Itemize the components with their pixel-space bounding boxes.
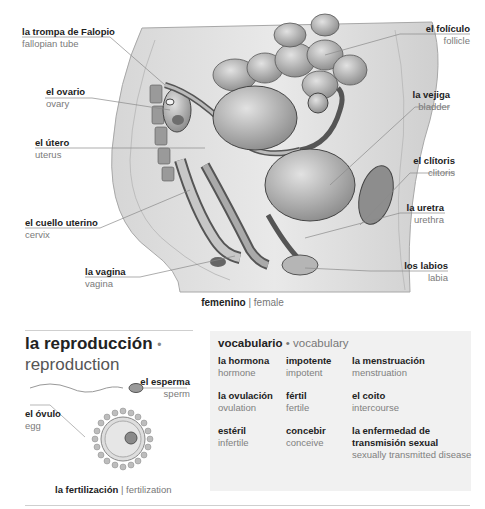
caption-separator: | [121,484,123,495]
vocab-item: estérilinfertile [218,425,249,449]
vocab-es: estéril [218,425,249,437]
fertilization-caption: la fertilización | fertilization [55,484,172,495]
label-es: el ovario [46,86,85,98]
vocab-item: fértilfertile [286,390,309,414]
label-bladder: la vejiga bladder [413,89,451,113]
vocab-es: impotente [286,355,331,367]
title-en: reproduction [25,355,161,374]
vocab-item: la menstruaciónmenstruation [352,355,425,379]
caption-es: femenino [201,297,245,308]
vocab-en: sexually transmitted disease [352,449,470,461]
label-es: la trompa de Falopio [22,26,115,38]
vocab-en: fertile [286,402,309,414]
vocab-en: infertile [218,437,249,449]
label-follicle: el folículo follicle [426,23,470,47]
diagram-caption: femenino | female [0,297,485,308]
vocab-en: impotent [286,367,331,379]
label-en: labia [404,272,448,284]
label-es: los labios [404,260,448,272]
label-ovary: el ovario ovary [46,86,85,110]
label-en: follicle [426,35,470,47]
label-en: bladder [413,101,451,113]
vocab-item: impotenteimpotent [286,355,331,379]
vocab-es: concebir [286,425,326,437]
label-es: el esperma [140,376,190,388]
vocab-es: fértil [286,390,309,402]
bullet-dot: • [157,338,161,352]
label-es: el óvulo [25,408,61,420]
caption-es: la fertilización [55,484,118,495]
label-es: la uretra [407,202,445,214]
label-en: cervix [25,229,98,241]
vocab-es: la menstruación [352,355,425,367]
label-es: el cuello uterino [25,217,98,229]
label-egg: el óvulo egg [25,408,61,432]
label-en: ovary [46,98,85,110]
vocabulary-title: vocabulario • vocabulary [218,337,349,349]
label-en: vagina [85,278,126,290]
label-es: la vejiga [413,89,451,101]
label-en: egg [25,420,61,432]
label-vagina: la vagina vagina [85,266,126,290]
label-en: sperm [140,388,190,400]
vocab-item: la enfermedad de transmisión sexualsexua… [352,425,470,461]
label-es: la vagina [85,266,126,278]
label-en: urethra [407,214,445,226]
label-en: uterus [35,149,69,161]
vocab-en: hormone [218,367,269,379]
vocab-en: intercourse [352,402,399,414]
label-uterus: el útero uterus [35,137,69,161]
vocab-en: conceive [286,437,326,449]
caption-en: fertilization [126,484,171,495]
label-labia: los labios labia [404,260,448,284]
label-es: el útero [35,137,69,149]
label-en: fallopian tube [22,38,115,50]
vocab-item: la hormonahormone [218,355,269,379]
vocab-es: el coito [352,390,399,402]
vocab-es: la hormona [218,355,269,367]
title-en: vocabulary [293,337,349,349]
bottom-divider [25,505,470,506]
label-cervix: el cuello uterino cervix [25,217,98,241]
caption-en: female [254,297,284,308]
label-es: el clítoris [413,155,455,167]
vocab-en: menstruation [352,367,425,379]
reproduction-title: la reproducción • reproduction [25,334,161,374]
label-urethra: la uretra urethra [407,202,445,226]
vocab-en: ovulation [218,402,273,414]
vocab-item: el coitointercourse [352,390,399,414]
label-sperm: el esperma sperm [140,376,190,400]
vocab-item: concebirconceive [286,425,326,449]
label-es: el folículo [426,23,470,35]
label-en: clitoris [413,167,455,179]
title-es: la reproducción [25,334,153,353]
bullet-dot: • [286,337,290,349]
vocab-es: la enfermedad de transmisión sexual [352,425,470,449]
caption-separator: | [248,297,251,308]
label-clitoris: el clítoris clitoris [413,155,455,179]
title-es: vocabulario [218,337,283,349]
label-fallopian-tube: la trompa de Falopio fallopian tube [22,26,115,50]
vocab-item: la ovulaciónovulation [218,390,273,414]
vocabulary-box: vocabulario • vocabulary la hormonahormo… [210,331,471,491]
section-divider [25,330,193,331]
vocab-es: la ovulación [218,390,273,402]
